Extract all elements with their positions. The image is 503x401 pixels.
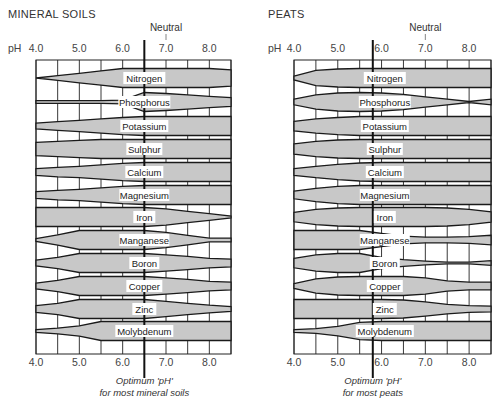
x-tick-bottom: 8.0 xyxy=(462,356,477,368)
nutrient-label: Magnesium xyxy=(120,190,169,201)
nutrient-label: Nitrogen xyxy=(367,73,403,84)
nutrient-label: Potassium xyxy=(363,121,407,132)
optimum-caption-line2: for most peats xyxy=(343,387,403,398)
nutrient-label: Iron xyxy=(136,212,152,223)
nutrient-label: Copper xyxy=(129,281,160,292)
optimum-caption-line1: Optimum 'pH' xyxy=(116,375,174,386)
x-tick-top: 8.0 xyxy=(462,42,477,54)
nutrient-label: Molybdenum xyxy=(358,326,412,337)
neutral-label: Neutral xyxy=(409,22,441,33)
ph-axis-label: pH xyxy=(8,42,21,54)
x-tick-top: 6.0 xyxy=(374,42,389,54)
panel-title: PEATS xyxy=(268,8,305,20)
x-tick-bottom: 7.0 xyxy=(418,356,433,368)
x-tick-bottom: 4.0 xyxy=(287,356,302,368)
nutrient-label: Iron xyxy=(377,212,393,223)
nutrient-label: Calcium xyxy=(368,167,402,178)
x-tick-bottom: 8.0 xyxy=(202,356,217,368)
x-tick-bottom: 6.0 xyxy=(374,356,389,368)
nutrient-availability-chart: MINERAL SOILSpH4.04.05.05.06.06.07.07.08… xyxy=(0,0,503,401)
nutrient-label: Manganese xyxy=(360,235,410,246)
x-tick-bottom: 5.0 xyxy=(330,356,345,368)
x-tick-bottom: 4.0 xyxy=(29,356,44,368)
x-tick-bottom: 6.0 xyxy=(115,356,130,368)
nutrient-label: Phosphorus xyxy=(359,97,410,108)
optimum-caption-line1: Optimum 'pH' xyxy=(344,375,402,386)
optimum-caption-line2: for most mineral soils xyxy=(99,387,189,398)
peats-panel: PEATSpH4.04.05.05.06.06.07.07.08.08.0Neu… xyxy=(268,8,491,398)
mineral-soils-panel: MINERAL SOILSpH4.04.05.05.06.06.07.07.08… xyxy=(8,8,231,398)
neutral-label: Neutral xyxy=(150,22,182,33)
panel-title: MINERAL SOILS xyxy=(8,8,96,20)
nutrient-label: Magnesium xyxy=(360,190,409,201)
nutrient-label: Molybdenum xyxy=(117,326,171,337)
nutrient-label: Boron xyxy=(372,258,397,269)
x-tick-top: 4.0 xyxy=(29,42,44,54)
ph-axis-label: pH xyxy=(268,42,281,54)
x-tick-top: 5.0 xyxy=(72,42,87,54)
nutrient-label: Phosphorus xyxy=(119,97,170,108)
nutrient-label: Boron xyxy=(132,258,157,269)
nutrient-label: Sulphur xyxy=(128,144,161,155)
nutrient-label: Calcium xyxy=(127,167,161,178)
x-tick-top: 5.0 xyxy=(330,42,345,54)
nutrient-label: Potassium xyxy=(122,121,166,132)
nutrient-label: Zinc xyxy=(376,304,394,315)
x-tick-top: 4.0 xyxy=(287,42,302,54)
nutrient-label: Copper xyxy=(369,281,400,292)
nutrient-label: Manganese xyxy=(120,235,170,246)
x-tick-top: 7.0 xyxy=(418,42,433,54)
nutrient-label: Nitrogen xyxy=(126,73,162,84)
nutrient-label: Sulphur xyxy=(368,144,401,155)
x-tick-bottom: 7.0 xyxy=(159,356,174,368)
x-tick-bottom: 5.0 xyxy=(72,356,87,368)
x-tick-top: 6.0 xyxy=(115,42,130,54)
nutrient-label: Zinc xyxy=(135,304,153,315)
x-tick-top: 7.0 xyxy=(159,42,174,54)
x-tick-top: 8.0 xyxy=(202,42,217,54)
